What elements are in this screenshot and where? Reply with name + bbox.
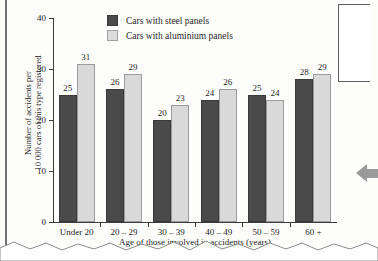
torn-paper-edge (0, 239, 378, 261)
bar-value-label: 26 (213, 78, 243, 87)
x-axis-tick (242, 223, 243, 227)
x-axis-tick (148, 223, 149, 227)
bar-steel (248, 95, 266, 223)
legend-swatch-steel-icon (107, 15, 118, 26)
y-axis-tick-label: 40 (37, 14, 46, 23)
bar-steel (295, 79, 313, 222)
bar-value-label: 31 (71, 53, 101, 62)
legend-item-aluminium: Cars with aluminium panels (107, 28, 233, 43)
bar-aluminium (171, 105, 189, 222)
bar-aluminium (124, 74, 142, 222)
x-axis-tick (100, 223, 101, 227)
bar-aluminium (266, 100, 284, 222)
chart-legend: Cars with steel panels Cars with alumini… (107, 13, 233, 43)
y-axis-title: Number of accidents per 10 000 cars of t… (23, 33, 43, 193)
x-axis-category-label: 60 + (273, 227, 353, 237)
x-axis-tick (290, 223, 291, 227)
y-axis-title-line-2: 10 000 cars of this type registered (33, 33, 43, 193)
bar-aluminium (219, 89, 237, 222)
bar-aluminium (313, 74, 331, 222)
bar-steel (106, 89, 124, 222)
bar-steel (59, 95, 77, 223)
bar-chart: 010203040 Number of accidents per 10 000… (0, 0, 378, 248)
legend-item-steel: Cars with steel panels (107, 13, 233, 28)
y-axis-tick (49, 69, 54, 70)
y-axis-tick (49, 222, 54, 223)
bar-value-label: 29 (118, 63, 148, 72)
legend-swatch-aluminium-icon (107, 30, 118, 41)
x-axis-tick (195, 223, 196, 227)
y-axis-tick (49, 171, 54, 172)
bar-aluminium (77, 64, 95, 222)
legend-label-steel: Cars with steel panels (126, 16, 209, 26)
bar-value-label: 24 (260, 89, 290, 98)
y-axis-tick-label: 0 (42, 218, 47, 227)
scanned-page: 010203040 Number of accidents per 10 000… (0, 0, 378, 261)
y-axis-title-line-1: Number of accidents per (23, 33, 33, 193)
bar-steel (153, 120, 171, 222)
bar-value-label: 23 (165, 94, 195, 103)
bar-value-label: 29 (307, 63, 337, 72)
y-axis-tick (49, 18, 54, 19)
legend-label-aluminium: Cars with aluminium panels (126, 31, 233, 41)
bar-steel (201, 100, 219, 222)
y-axis-tick (49, 120, 54, 121)
